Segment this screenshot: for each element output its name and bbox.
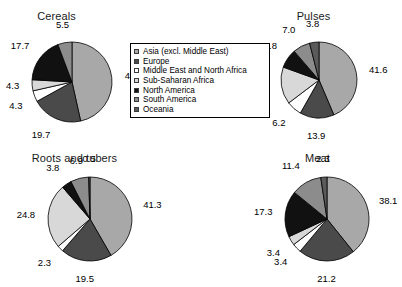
- legend-swatch-icon: [134, 49, 139, 54]
- legend-item: Sub-Saharan Africa: [134, 76, 265, 86]
- pie-chart-cereals: 44.819.74.34.317.75.5: [3, 13, 141, 151]
- pie-slice-value-label: 2.3: [316, 154, 329, 164]
- legend-item-label: South America: [143, 95, 196, 104]
- legend-swatch-icon: [134, 68, 139, 73]
- pie-slice-value-label: 19.5: [76, 274, 95, 284]
- legend-swatch-icon: [134, 97, 139, 102]
- legend-item: Asia (excl. Middle East): [134, 47, 265, 57]
- pie-slice-value-label: 4.3: [6, 81, 19, 91]
- pie-slice-value-label: 3.8: [46, 163, 59, 173]
- legend-item-label: Asia (excl. Middle East): [143, 47, 229, 56]
- pie-slice-value-label: 6.2: [272, 118, 285, 128]
- pie-slice-value-label: 38.1: [379, 196, 398, 206]
- legend-swatch-icon: [134, 78, 139, 83]
- pie-chart-meat: 38.121.23.43.417.311.42.3: [256, 148, 398, 287]
- legend-item-label: North America: [143, 86, 195, 95]
- pie-slice-value-label: 2.3: [38, 258, 51, 268]
- pie-slice-value-label: 11.4: [282, 161, 300, 171]
- legend-item: Europe: [134, 57, 265, 67]
- pie-chart-roots-and-tubers: 41.319.52.324.83.86.90.5: [19, 148, 161, 287]
- legend-item-label: Oceania: [143, 105, 174, 114]
- legend-item-label: Sub-Saharan Africa: [143, 76, 214, 85]
- legend-item: North America: [134, 85, 265, 95]
- pie-slice-value-label: 41.3: [143, 200, 162, 210]
- pie-slice-value-label: 41.6: [369, 65, 388, 75]
- pie-slice-value-label: 17.3: [254, 207, 273, 217]
- pie-slice-value-label: 6.9: [70, 156, 83, 166]
- legend-item: Oceania: [134, 105, 265, 115]
- pie-slice-value-label: 3.4: [274, 257, 287, 267]
- pie-slice-value-label: 24.8: [17, 210, 36, 220]
- pie-slice-value-label: 13.9: [307, 131, 326, 141]
- pie-slice-value-label: 3.4: [267, 248, 280, 258]
- pie-chart-pulses: 41.613.96.215.17.87.03.8: [252, 13, 386, 147]
- legend-swatch-icon: [134, 88, 139, 93]
- pie-slice-value-label: 5.5: [56, 20, 69, 30]
- pie-slice-value-label: 3.8: [306, 19, 319, 29]
- legend-item: Middle East and North Africa: [134, 66, 265, 76]
- pie-slice-value-label: 4.3: [9, 101, 22, 111]
- region-legend: Asia (excl. Middle East)EuropeMiddle Eas…: [130, 43, 270, 118]
- legend-item-label: Europe: [143, 57, 169, 66]
- legend-item: South America: [134, 95, 265, 105]
- pie-slice-value-label: 19.7: [32, 130, 51, 140]
- pie-panel-meat: Meat 38.121.23.43.417.311.42.3: [197, 144, 394, 287]
- pie-slice-value-label: 0.5: [83, 154, 96, 164]
- legend-item-label: Middle East and North Africa: [143, 66, 247, 75]
- pie-panel-roots-and-tubers: Roots and tubers 41.319.52.324.83.86.90.…: [0, 144, 197, 287]
- legend-swatch-icon: [134, 107, 139, 112]
- pie-slice-value-label: 21.2: [317, 274, 336, 284]
- pie-svg: [3, 13, 141, 151]
- pie-slice-value-label: 7.0: [282, 25, 295, 35]
- legend-swatch-icon: [134, 59, 139, 64]
- pie-slice-value-label: 17.7: [11, 41, 30, 51]
